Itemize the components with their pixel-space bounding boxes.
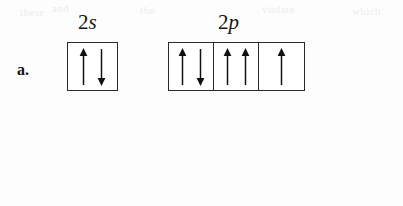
spin-up-arrow-icon	[79, 48, 88, 86]
subshell-label-2p: 2p	[218, 12, 239, 33]
spin-up-arrow-icon	[178, 48, 187, 86]
subshell-principal-number: 2	[78, 10, 89, 34]
subshell-principal-number: 2	[218, 10, 229, 34]
subshell-principal-number: 3	[232, 205, 243, 206]
electron-arrow-single	[259, 43, 304, 90]
subshell-principal-number: 4	[78, 205, 89, 206]
item-letter-a: a.	[17, 62, 29, 78]
orbital-box	[68, 43, 117, 90]
orbital-box	[259, 43, 304, 90]
spin-up-arrow-icon	[223, 48, 232, 86]
electron-arrow-pair	[68, 43, 117, 90]
orbital-group-2s	[67, 42, 118, 91]
spin-down-arrow-icon	[196, 48, 205, 86]
electron-arrow-pair	[169, 43, 213, 90]
electron-arrow-pair	[214, 43, 258, 90]
subshell-orbital-letter: s	[89, 205, 97, 206]
subshell-orbital-letter: p	[229, 10, 240, 34]
spin-up-arrow-icon	[241, 48, 250, 86]
orbital-box	[169, 43, 214, 90]
diagram-row-b: b. 4s 3d	[0, 97, 403, 202]
diagram-row-a: a. 2s 2p	[0, 0, 403, 100]
orbital-diagram-figure: these and the violate which a. 2s	[0, 0, 403, 206]
subshell-orbital-letter: s	[89, 10, 97, 34]
orbital-group-2p	[168, 42, 305, 91]
subshell-orbital-letter: d	[243, 205, 254, 206]
spin-down-arrow-icon	[97, 48, 106, 86]
subshell-label-2s: 2s	[78, 12, 97, 33]
orbital-box	[214, 43, 259, 90]
spin-up-arrow-icon	[277, 48, 286, 86]
